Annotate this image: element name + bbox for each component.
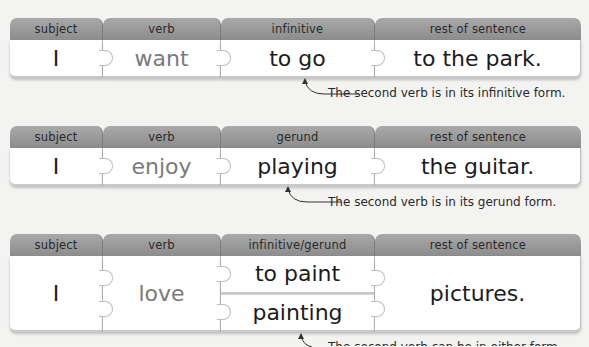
header-verb: verb (103, 18, 221, 40)
puzzle-row-either: subject verb infinitive/gerund rest of s… (10, 234, 581, 332)
tile-rest: the guitar. (375, 148, 581, 186)
header-rest: rest of sentence (375, 18, 581, 40)
subject-text: I (53, 46, 60, 71)
puzzle-tab-icon (99, 301, 113, 317)
header-subject: subject (10, 18, 103, 40)
header-infinitive: infinitive (221, 18, 375, 40)
rest-text: to the park. (413, 46, 541, 71)
verb-text: enjoy (131, 154, 191, 179)
header-infinitive-gerund: infinitive/gerund (221, 234, 375, 256)
verb-text: love (138, 281, 184, 306)
subject-text: I (53, 281, 60, 306)
tile-subject: I (10, 256, 103, 332)
tile-row: I want to go to the park. (10, 40, 581, 78)
tile-row: I love to paint painting pictures. (10, 256, 581, 332)
tile-verb: enjoy (103, 148, 221, 186)
annotation-either-cut-off: The second verb can be in either form. (328, 340, 561, 346)
tile-infinitive-option: to paint (221, 256, 375, 294)
gerund-text: painting (252, 300, 342, 325)
tile-stack-infinitive-gerund: to paint painting (221, 256, 375, 332)
subject-text: I (53, 154, 60, 179)
puzzle-tab-icon (217, 266, 231, 282)
puzzle-tab-icon (217, 158, 231, 174)
rest-text: the guitar. (421, 154, 534, 179)
puzzle-tab-icon (371, 158, 385, 174)
tile-rest: to the park. (375, 40, 581, 78)
rest-text: pictures. (430, 281, 525, 306)
infinitive-text: to paint (255, 261, 340, 286)
infinitive-text: to go (269, 46, 326, 71)
tile-gerund: playing (221, 148, 375, 186)
header-rest: rest of sentence (375, 126, 581, 148)
verb-text: want (134, 46, 188, 71)
header-row: subject verb gerund rest of sentence (10, 126, 581, 148)
puzzle-tab-icon (217, 50, 231, 66)
header-verb: verb (103, 126, 221, 148)
tile-subject: I (10, 40, 103, 78)
header-gerund: gerund (221, 126, 375, 148)
header-rest: rest of sentence (375, 234, 581, 256)
header-row: subject verb infinitive rest of sentence (10, 18, 581, 40)
tile-gerund-option: painting (221, 294, 375, 333)
annotation-gerund: The second verb is in its gerund form. (328, 195, 556, 209)
tile-infinitive: to go (221, 40, 375, 78)
annotation-infinitive: The second verb is in its infinitive for… (328, 86, 565, 100)
puzzle-tab-icon (217, 304, 231, 320)
header-verb: verb (103, 234, 221, 256)
gerund-text: playing (257, 154, 338, 179)
header-subject: subject (10, 234, 103, 256)
puzzle-tab-icon (99, 50, 113, 66)
header-subject: subject (10, 126, 103, 148)
tile-subject: I (10, 148, 103, 186)
tile-rest: pictures. (375, 256, 581, 332)
tile-row: I enjoy playing the guitar. (10, 148, 581, 186)
tile-verb: love (103, 256, 221, 332)
puzzle-tab-icon (371, 50, 385, 66)
puzzle-row-infinitive: subject verb infinitive rest of sentence… (10, 18, 581, 78)
header-row: subject verb infinitive/gerund rest of s… (10, 234, 581, 256)
puzzle-row-gerund: subject verb gerund rest of sentence I e… (10, 126, 581, 186)
puzzle-tab-icon (371, 270, 385, 286)
puzzle-tab-icon (371, 301, 385, 317)
puzzle-tab-icon (99, 270, 113, 286)
tile-verb: want (103, 40, 221, 78)
puzzle-tab-icon (99, 158, 113, 174)
